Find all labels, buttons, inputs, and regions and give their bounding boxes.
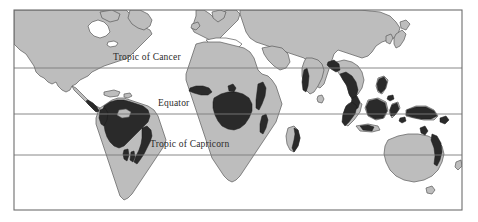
- landmass-sri-lanka: [317, 95, 324, 103]
- world-rainforest-map-figure: Tropic of Cancer Equator Tropic of Capri…: [0, 0, 478, 222]
- label-equator: Equator: [158, 98, 190, 108]
- label-tropic-of-capricorn: Tropic of Capricorn: [150, 139, 229, 149]
- label-tropic-of-cancer: Tropic of Cancer: [113, 52, 181, 62]
- great-lakes: [107, 41, 118, 47]
- world-map-svg: Tropic of Cancer Equator Tropic of Capri…: [0, 0, 478, 222]
